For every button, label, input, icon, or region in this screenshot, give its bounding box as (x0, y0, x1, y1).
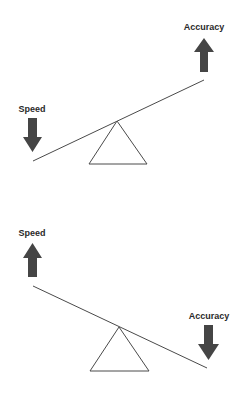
fulcrum-triangle (90, 327, 149, 371)
bottom-speed-label: Speed (18, 228, 45, 238)
fulcrum-triangle (89, 121, 147, 164)
down-arrow-icon (23, 118, 42, 152)
bottom-accuracy-label: Accuracy (189, 311, 230, 321)
top-accuracy-label: Accuracy (184, 22, 225, 32)
top-speed-label: Speed (18, 104, 45, 114)
panel-top: Accuracy Speed (18, 22, 224, 164)
up-arrow-icon (23, 243, 42, 277)
up-arrow-icon (194, 38, 214, 72)
seesaw-diagram: Accuracy Speed Speed Accuracy (0, 0, 244, 395)
panel-bottom: Speed Accuracy (18, 228, 229, 371)
down-arrow-icon (198, 325, 219, 360)
